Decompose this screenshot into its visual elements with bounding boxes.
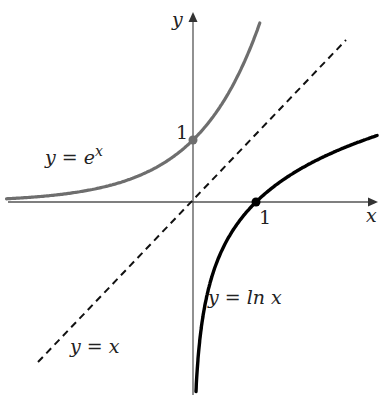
exp-curve — [7, 23, 260, 199]
identity-line — [38, 40, 346, 362]
y-axis-label: y — [171, 8, 183, 30]
function-graph: y x 1 1 y = ex y = ln x y = x — [0, 0, 383, 407]
ln-curve — [196, 136, 377, 392]
ln-label: y = ln x — [207, 286, 282, 308]
identity-label: y = x — [69, 335, 120, 357]
y-axis-arrow-icon — [189, 12, 198, 22]
exp-point-marker — [189, 136, 198, 145]
x-axis-label: x — [366, 204, 377, 226]
x-tick-1: 1 — [259, 206, 271, 228]
exp-label: y = ex — [44, 143, 103, 168]
y-tick-1: 1 — [176, 121, 188, 143]
axes — [8, 12, 378, 395]
